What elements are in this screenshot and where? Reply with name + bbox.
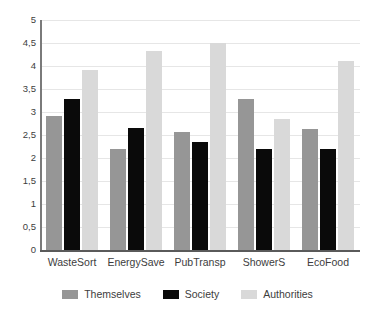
legend-swatch-themselves bbox=[62, 290, 78, 299]
y-axis-tick-label: 0 bbox=[2, 245, 36, 255]
bar-authorities-showers bbox=[274, 119, 290, 250]
bar-themselves-pubtransp bbox=[174, 132, 190, 250]
bar-themselves-showers bbox=[238, 99, 254, 250]
bars-layer bbox=[40, 20, 360, 250]
y-axis-tick-label: 0,5 bbox=[2, 222, 36, 232]
x-axis-category-labels: WasteSortEnergySavePubTranspShowerSEcoFo… bbox=[40, 255, 360, 273]
bar-group bbox=[238, 20, 290, 250]
y-axis-tick-label: 2,5 bbox=[2, 130, 36, 140]
y-axis-tick-label: 1 bbox=[2, 199, 36, 209]
chart-legend: ThemselvesSocietyAuthorities bbox=[0, 286, 375, 302]
legend-label: Society bbox=[185, 288, 219, 300]
bar-themselves-energysave bbox=[110, 149, 126, 250]
bar-group bbox=[46, 20, 98, 250]
x-axis-label-showers: ShowerS bbox=[232, 255, 296, 269]
y-axis-tick-label: 5 bbox=[2, 15, 36, 25]
legend-item-themselves[interactable]: Themselves bbox=[62, 288, 141, 300]
bar-society-pubtransp bbox=[192, 142, 208, 250]
x-axis-label-pubtransp: PubTransp bbox=[168, 255, 232, 269]
bar-authorities-pubtransp bbox=[210, 43, 226, 250]
bar-authorities-ecofood bbox=[338, 61, 354, 250]
legend-item-society[interactable]: Society bbox=[163, 288, 219, 300]
bar-authorities-energysave bbox=[146, 51, 162, 250]
y-axis-tick-label: 4,5 bbox=[2, 38, 36, 48]
legend-swatch-society bbox=[163, 290, 179, 299]
bar-authorities-wastesort bbox=[82, 70, 98, 250]
bar-themselves-wastesort bbox=[46, 116, 62, 250]
bar-group bbox=[174, 20, 226, 250]
y-axis-tick-label: 3 bbox=[2, 107, 36, 117]
y-axis-tick-labels: 54,543,532,521,510,50 bbox=[0, 0, 36, 312]
bar-group bbox=[302, 20, 354, 250]
bar-society-energysave bbox=[128, 128, 144, 250]
legend-label: Themselves bbox=[84, 288, 141, 300]
y-axis-tick-label: 1,5 bbox=[2, 176, 36, 186]
x-axis-label-energysave: EnergySave bbox=[104, 255, 168, 269]
bar-chart: 54,543,532,521,510,50 WasteSortEnergySav… bbox=[0, 0, 375, 312]
y-axis-tick-label: 2 bbox=[2, 153, 36, 163]
bar-group bbox=[110, 20, 162, 250]
y-axis-tick-label: 4 bbox=[2, 61, 36, 71]
legend-item-authorities[interactable]: Authorities bbox=[241, 288, 313, 300]
bar-society-ecofood bbox=[320, 149, 336, 250]
x-axis-label-ecofood: EcoFood bbox=[296, 255, 360, 269]
x-axis-line bbox=[40, 250, 360, 252]
bar-society-wastesort bbox=[64, 99, 80, 250]
bar-themselves-ecofood bbox=[302, 129, 318, 250]
y-axis-tick-label: 3,5 bbox=[2, 84, 36, 94]
legend-swatch-authorities bbox=[241, 290, 257, 299]
legend-label: Authorities bbox=[263, 288, 313, 300]
bar-society-showers bbox=[256, 149, 272, 250]
x-axis-label-wastesort: WasteSort bbox=[40, 255, 104, 269]
